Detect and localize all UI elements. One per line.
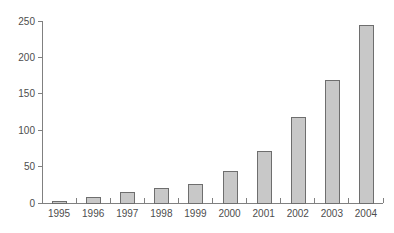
x-axis-tick-label: 1997 [116, 208, 139, 219]
x-axis-tick-label: 1999 [184, 208, 207, 219]
bar [326, 81, 340, 204]
x-axis-tick-label: 2004 [355, 208, 378, 219]
y-axis-tick-label: 200 [18, 52, 35, 63]
y-axis-tick-label: 100 [18, 125, 35, 136]
bar [292, 118, 306, 204]
bar [155, 189, 169, 204]
y-axis-tick-label: 250 [18, 16, 35, 27]
bar [189, 185, 203, 204]
bar [121, 193, 135, 204]
x-axis-tick-label: 2001 [253, 208, 276, 219]
y-axis-tick-label: 150 [18, 88, 35, 99]
bar [53, 202, 67, 204]
x-axis-tick-label: 1996 [82, 208, 105, 219]
chart-canvas: 050100150200250 199519961997199819992000… [0, 0, 394, 233]
x-axis-tick-label: 2000 [218, 208, 241, 219]
x-axis-tick-label: 1998 [150, 208, 173, 219]
bar [224, 172, 238, 204]
x-axis-tick-label: 2003 [321, 208, 344, 219]
bar-chart: 050100150200250 199519961997199819992000… [0, 0, 394, 233]
y-axis-tick-label: 50 [24, 161, 36, 172]
bar [87, 198, 101, 204]
x-axis-tick-label: 1995 [48, 208, 71, 219]
y-axis-tick-label: 0 [29, 198, 35, 209]
bar [360, 26, 374, 204]
bar [258, 152, 272, 204]
x-axis-tick-label: 2002 [287, 208, 310, 219]
